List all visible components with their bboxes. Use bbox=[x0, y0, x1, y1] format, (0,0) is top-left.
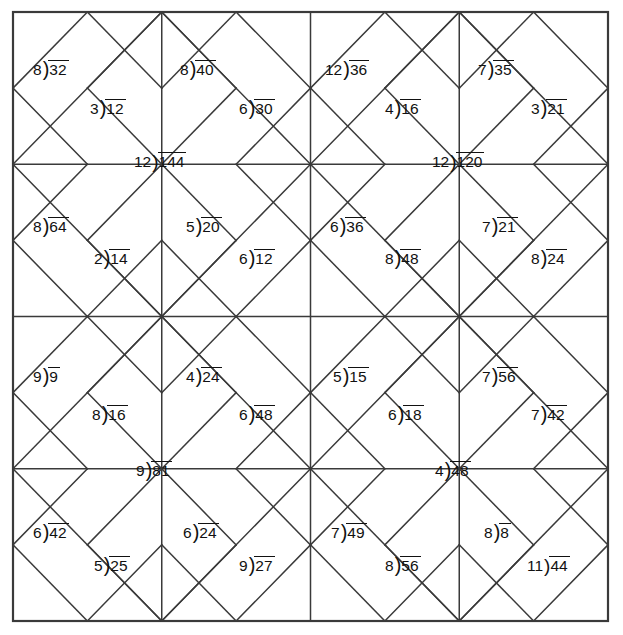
division-bracket-icon: ) bbox=[395, 250, 402, 266]
problem-dividend: 18 bbox=[403, 405, 423, 423]
division-problem[interactable]: 4)48 bbox=[435, 461, 471, 479]
division-bracket-icon: ) bbox=[43, 61, 50, 77]
corner-triangle-edge bbox=[13, 240, 87, 316]
corner-triangle-edge bbox=[534, 317, 608, 393]
problem-divisor: 9 bbox=[136, 463, 146, 479]
problem-dividend: 64 bbox=[48, 217, 68, 235]
division-problem[interactable]: 12)144 bbox=[134, 152, 186, 170]
problem-dividend: 12 bbox=[105, 99, 125, 117]
corner-triangle-edge bbox=[311, 545, 385, 621]
problem-divisor: 6 bbox=[239, 251, 249, 267]
division-bracket-icon: ) bbox=[43, 524, 50, 540]
problem-divisor: 7 bbox=[478, 62, 488, 78]
division-problem[interactable]: 8)56 bbox=[385, 556, 421, 574]
problem-divisor: 8 bbox=[92, 407, 102, 423]
division-bracket-icon: ) bbox=[193, 524, 200, 540]
division-problem[interactable]: 7)21 bbox=[482, 217, 518, 235]
problem-dividend: 12 bbox=[254, 249, 274, 267]
division-problem[interactable]: 6)12 bbox=[239, 249, 275, 267]
division-bracket-icon: ) bbox=[341, 524, 348, 540]
problem-divisor: 12 bbox=[134, 154, 152, 170]
division-problem[interactable]: 8)64 bbox=[33, 217, 69, 235]
division-bracket-icon: ) bbox=[43, 368, 50, 384]
problem-divisor: 8 bbox=[180, 62, 190, 78]
problem-dividend: 25 bbox=[109, 556, 129, 574]
division-problem[interactable]: 12)120 bbox=[432, 152, 484, 170]
problem-dividend: 44 bbox=[549, 556, 569, 574]
problem-divisor: 6 bbox=[239, 101, 249, 117]
division-bracket-icon: ) bbox=[343, 368, 350, 384]
division-bracket-icon: ) bbox=[492, 218, 499, 234]
division-problem[interactable]: 6)42 bbox=[33, 523, 69, 541]
division-bracket-icon: ) bbox=[190, 61, 197, 77]
problem-dividend: 8 bbox=[499, 523, 511, 541]
division-problem[interactable]: 8)16 bbox=[92, 405, 128, 423]
division-problem[interactable]: 7)35 bbox=[478, 60, 514, 78]
problem-divisor: 6 bbox=[330, 219, 340, 235]
division-problem[interactable]: 6)24 bbox=[183, 523, 219, 541]
division-problem[interactable]: 8)24 bbox=[531, 249, 567, 267]
division-problem[interactable]: 5)20 bbox=[186, 217, 222, 235]
division-bracket-icon: ) bbox=[395, 100, 402, 116]
division-bracket-icon: ) bbox=[249, 250, 256, 266]
problem-divisor: 9 bbox=[33, 369, 43, 385]
problem-dividend: 36 bbox=[345, 217, 365, 235]
division-problem[interactable]: 7)42 bbox=[531, 405, 567, 423]
division-problem[interactable]: 6)18 bbox=[388, 405, 424, 423]
division-bracket-icon: ) bbox=[445, 462, 452, 478]
division-problem[interactable]: 11)44 bbox=[527, 556, 570, 574]
division-bracket-icon: ) bbox=[494, 524, 501, 540]
division-bracket-icon: ) bbox=[146, 462, 153, 478]
division-bracket-icon: ) bbox=[249, 406, 256, 422]
problem-divisor: 8 bbox=[531, 251, 541, 267]
problem-divisor: 3 bbox=[531, 101, 541, 117]
problem-divisor: 7 bbox=[331, 525, 341, 541]
center-diamond-edge bbox=[162, 393, 236, 469]
problem-divisor: 3 bbox=[90, 101, 100, 117]
problem-dividend: 30 bbox=[254, 99, 274, 117]
division-bracket-icon: ) bbox=[398, 406, 405, 422]
center-diamond-edge bbox=[87, 164, 161, 240]
division-problem[interactable]: 4)16 bbox=[385, 99, 421, 117]
division-problem[interactable]: 5)15 bbox=[333, 367, 369, 385]
division-problem[interactable]: 8)48 bbox=[385, 249, 421, 267]
corner-triangle-edge bbox=[236, 12, 310, 88]
division-bracket-icon: ) bbox=[492, 368, 499, 384]
problem-divisor: 12 bbox=[432, 154, 450, 170]
division-problem[interactable]: 5)25 bbox=[94, 556, 130, 574]
division-problem[interactable]: 9)81 bbox=[136, 461, 172, 479]
division-bracket-icon: ) bbox=[395, 557, 402, 573]
division-problem[interactable]: 3)12 bbox=[90, 99, 126, 117]
division-bracket-icon: ) bbox=[152, 154, 158, 169]
problem-dividend: 24 bbox=[546, 249, 566, 267]
problem-divisor: 2 bbox=[94, 251, 104, 267]
problem-dividend: 42 bbox=[546, 405, 566, 423]
division-bracket-icon: ) bbox=[249, 100, 256, 116]
division-problem[interactable]: 7)56 bbox=[482, 367, 518, 385]
division-problem[interactable]: 9)9 bbox=[33, 367, 60, 385]
division-problem[interactable]: 2)14 bbox=[94, 249, 130, 267]
division-problem[interactable]: 8)32 bbox=[33, 60, 69, 78]
division-problem[interactable]: 9)27 bbox=[239, 556, 275, 574]
division-problem[interactable]: 4)24 bbox=[186, 367, 222, 385]
problem-divisor: 6 bbox=[183, 525, 193, 541]
division-problem[interactable]: 7)49 bbox=[331, 523, 367, 541]
division-problem[interactable]: 12)36 bbox=[325, 60, 369, 78]
problem-divisor: 7 bbox=[482, 219, 492, 235]
problem-divisor: 4 bbox=[385, 101, 395, 117]
division-problem[interactable]: 6)36 bbox=[330, 217, 366, 235]
problem-divisor: 8 bbox=[385, 251, 395, 267]
problem-dividend: 56 bbox=[497, 367, 517, 385]
problem-dividend: 35 bbox=[493, 60, 513, 78]
division-bracket-icon: ) bbox=[541, 250, 548, 266]
division-bracket-icon: ) bbox=[196, 368, 203, 384]
division-problem[interactable]: 3)21 bbox=[531, 99, 567, 117]
division-problem[interactable]: 6)48 bbox=[239, 405, 275, 423]
division-problem[interactable]: 8)40 bbox=[180, 60, 216, 78]
division-problem[interactable]: 8)8 bbox=[484, 523, 511, 541]
problem-dividend: 40 bbox=[195, 60, 215, 78]
division-problem[interactable]: 6)30 bbox=[239, 99, 275, 117]
problem-dividend: 32 bbox=[48, 60, 68, 78]
problem-dividend: 49 bbox=[346, 523, 366, 541]
division-bracket-icon: ) bbox=[541, 100, 548, 116]
